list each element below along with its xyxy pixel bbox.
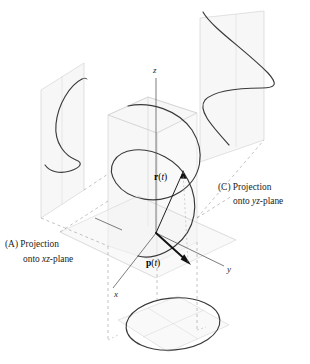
- xz-projection-curve-tail: [82, 78, 87, 79]
- xy-projection-plane-group: [118, 294, 229, 354]
- caption-c-line1: (C) Projection: [218, 182, 272, 193]
- vector-calculus-figure: z x y r(t) p(t): [0, 0, 310, 364]
- r-vector-label-paren-close: ): [164, 172, 167, 183]
- z-axis-label: z: [152, 65, 157, 75]
- caption-c-line2-suffix: -plane: [260, 196, 283, 206]
- caption-a-line1: (A) Projection: [5, 239, 59, 250]
- yz-projection-plane-group: [200, 11, 274, 162]
- xz-projection-plane-group: [41, 63, 87, 218]
- r-vector-label: r(t): [154, 172, 167, 183]
- caption-a-group: (A) Projection onto xz-plane: [5, 239, 73, 264]
- x-axis-label: x: [113, 289, 118, 299]
- y-axis-label: y: [226, 264, 231, 274]
- caption-a-line2: onto xz-plane: [23, 254, 73, 264]
- caption-a-line2-suffix: -plane: [50, 254, 73, 264]
- caption-c-line2: onto yz-plane: [233, 196, 283, 206]
- xz-plane-face: [41, 63, 84, 218]
- guide-box-to-yz-lower: [197, 196, 232, 218]
- yz-plane-face: [200, 11, 264, 162]
- caption-c-group: (C) Projection onto yz-plane: [218, 182, 283, 206]
- caption-a-line2-prefix: onto: [23, 254, 42, 264]
- caption-a-line2-plane: xz: [41, 254, 50, 264]
- guide-bottom-plane-left: [108, 335, 118, 340]
- p-vector-label: p(t): [146, 258, 160, 269]
- guide-box-to-xz-upper: [84, 174, 108, 190]
- caption-c-line2-prefix: onto: [233, 196, 252, 206]
- figure-container: z x y r(t) p(t): [0, 0, 310, 364]
- p-vector-label-paren-close: ): [157, 258, 160, 269]
- caption-c-line2-plane: yz: [251, 196, 260, 206]
